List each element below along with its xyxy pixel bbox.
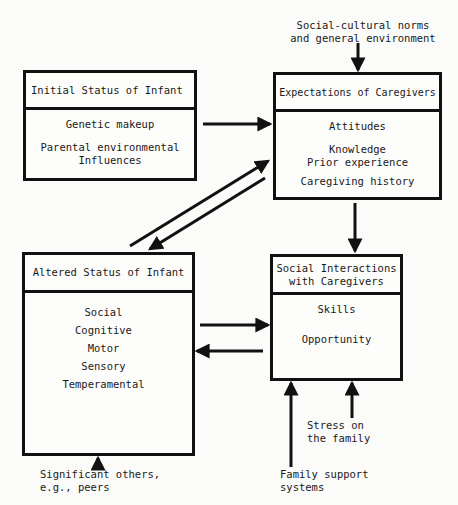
altered-status-box: Altered Status of Infant Social Cognitiv…: [22, 252, 195, 456]
social-interactions-title: Social Interactions with Caregivers: [273, 257, 400, 295]
item-knowledge-experience: Knowledge Prior experience: [276, 143, 439, 169]
item-parental-influences: Parental environmental Influences: [26, 141, 194, 167]
expectations-box: Expectations of Caregivers Attitudes Kno…: [273, 72, 442, 200]
family-support-label: Family support systems: [280, 468, 380, 494]
item-motor: Motor: [25, 339, 182, 357]
expectations-title: Expectations of Caregivers: [276, 75, 439, 112]
social-interactions-box: Social Interactions with Caregivers Skil…: [270, 254, 403, 381]
item-attitudes: Attitudes: [276, 120, 439, 133]
item-opportunity: Opportunity: [273, 333, 400, 346]
altered-status-items: Social Cognitive Motor Sensory Temperame…: [25, 293, 192, 393]
initial-status-items: Genetic makeup Parental environmental In…: [26, 110, 194, 167]
initial-status-box: Initial Status of Infant Genetic makeup …: [23, 70, 197, 181]
item-social: Social: [25, 303, 182, 321]
item-genetic-makeup: Genetic makeup: [26, 118, 194, 131]
expectations-items: Attitudes Knowledge Prior experience Car…: [276, 112, 439, 188]
social-interactions-items: Skills Opportunity: [273, 295, 400, 346]
altered-status-title: Altered Status of Infant: [25, 255, 192, 293]
initial-status-title: Initial Status of Infant: [26, 73, 194, 110]
stress-label: Stress on the family: [307, 419, 387, 445]
item-cognitive: Cognitive: [25, 321, 182, 339]
item-skills: Skills: [273, 303, 400, 316]
item-temperamental: Temperamental: [25, 375, 182, 393]
social-cultural-label: Social-cultural norms and general enviro…: [288, 19, 438, 45]
item-sensory: Sensory: [25, 357, 182, 375]
item-caregiving-history: Caregiving history: [276, 175, 439, 188]
arrow-expectations-to-altered: [150, 178, 265, 249]
significant-others-label: Significant others, e.g., peers: [40, 468, 170, 494]
